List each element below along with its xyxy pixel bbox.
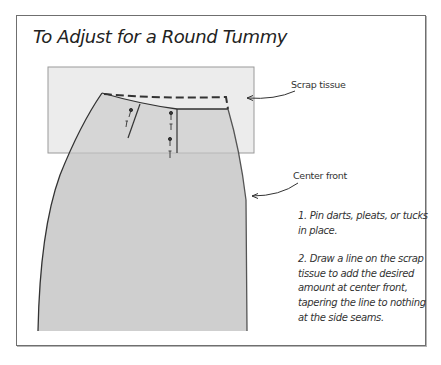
instruction-step-1: 1. Pin darts, pleats, or tucks in place.	[298, 209, 428, 238]
scrap-tissue-label: Scrap tissue	[291, 79, 346, 90]
center-front-label: Center front	[293, 170, 347, 181]
instruction-steps: 1. Pin darts, pleats, or tucks in place.…	[298, 209, 428, 339]
instruction-step-2: 2. Draw a line on the scrap tissue to ad…	[298, 252, 428, 325]
center-front-arrow-icon	[252, 183, 298, 199]
